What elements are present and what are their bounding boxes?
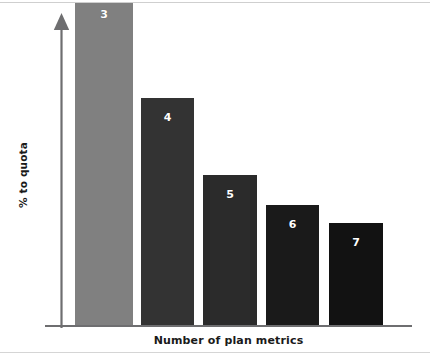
bar-value-label: 7 (329, 237, 383, 248)
bar-category-6[interactable]: 6 (266, 205, 319, 325)
y-axis (52, 10, 72, 328)
arrow-up-icon (52, 10, 72, 328)
bar-value-label: 3 (75, 9, 133, 20)
bar-chart-figure: 3 4 5 6 7 Number of plan metrics % to qu… (0, 0, 430, 362)
x-axis-baseline (45, 325, 412, 327)
bar-category-3[interactable]: 3 (75, 3, 133, 325)
y-axis-title-container: % to quota (10, 120, 36, 230)
bar-category-7[interactable]: 7 (329, 223, 383, 325)
bar-value-label: 6 (266, 219, 319, 230)
bar-category-4[interactable]: 4 (141, 98, 194, 325)
bar-value-label: 5 (203, 189, 257, 200)
y-axis-title: % to quota (17, 142, 29, 208)
bar-category-5[interactable]: 5 (203, 175, 257, 325)
x-axis-title: Number of plan metrics (45, 334, 412, 347)
bar-value-label: 4 (141, 112, 194, 123)
plot-area: 3 4 5 6 7 Number of plan metrics % to qu… (0, 0, 430, 362)
